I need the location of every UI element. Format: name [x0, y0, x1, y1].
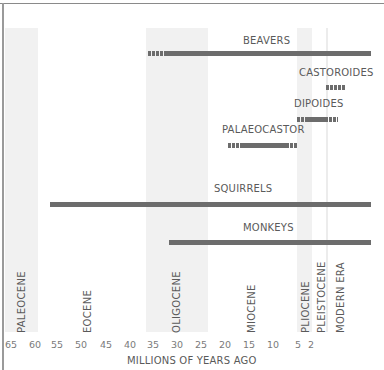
frame-top-border — [0, 3, 384, 4]
bar-dipoides-uncertain-end — [325, 117, 338, 122]
tick-20: 20 — [219, 339, 231, 350]
frame-left-border — [2, 3, 4, 370]
bar-dipoides-uncertain-start — [297, 117, 306, 122]
bar-palaeocastor — [240, 143, 286, 148]
label-beavers: BEAVERS — [243, 35, 290, 46]
label-dipoides: DIPOIDES — [294, 98, 343, 109]
epoch-label-oligocene: OLIGOCENE — [171, 271, 182, 333]
tick-2: 2 — [308, 339, 314, 350]
tick-50: 50 — [75, 339, 87, 350]
epoch-label-modern-era: MODERN ERA — [335, 262, 346, 333]
epoch-label-pliocene: PLIOCENE — [300, 281, 311, 333]
bar-monkeys — [169, 240, 371, 245]
tick-10: 10 — [267, 339, 279, 350]
tick-65: 65 — [5, 339, 17, 350]
tick-30: 30 — [171, 339, 183, 350]
label-castoroides: CASTOROIDES — [299, 67, 374, 78]
bar-dipoides — [306, 117, 325, 122]
bar-palaeocastor-uncertain-end — [286, 143, 298, 148]
tick-45: 45 — [100, 339, 112, 350]
tick-55: 55 — [51, 339, 63, 350]
bar-beavers-uncertain — [148, 51, 164, 56]
label-palaeocastor: PALAEOCASTOR — [222, 124, 305, 135]
tick-5: 5 — [295, 339, 301, 350]
chart-frame: BEAVERS CASTOROIDES DIPOIDES PALAEOCASTO… — [0, 0, 384, 370]
bar-castoroides-uncertain — [326, 85, 346, 90]
tick-40: 40 — [124, 339, 136, 350]
label-monkeys: MONKEYS — [243, 222, 294, 233]
epoch-label-pleistocene: PLEISTOCENE — [316, 261, 327, 333]
label-squirrels: SQUIRRELS — [214, 183, 272, 194]
tick-35: 35 — [147, 339, 159, 350]
epoch-label-paleocene: PALEOCENE — [16, 271, 27, 333]
bar-squirrels — [50, 202, 371, 207]
bar-palaeocastor-uncertain-start — [228, 143, 240, 148]
bar-beavers — [164, 51, 371, 56]
tick-25: 25 — [195, 339, 207, 350]
epoch-label-miocene: MIOCENE — [246, 284, 257, 333]
x-axis-title: MILLIONS OF YEARS AGO — [127, 355, 257, 366]
tick-15: 15 — [243, 339, 255, 350]
epoch-label-eocene: EOCENE — [82, 290, 93, 333]
tick-60: 60 — [29, 339, 41, 350]
